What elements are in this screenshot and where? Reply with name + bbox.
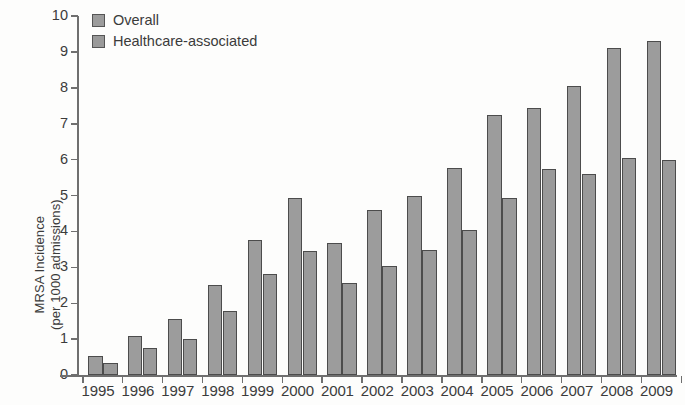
bar-healthcare-associated-1997: [183, 339, 198, 375]
x-axis-line: [60, 375, 677, 377]
x-axis-tick-label-2004: 2004: [439, 383, 475, 400]
x-axis-tick-label-2009: 2009: [639, 383, 675, 400]
bar-healthcare-associated-2002: [382, 266, 397, 375]
legend-label-healthcare-associated: Healthcare-associated: [113, 34, 257, 49]
y-axis-tick: [71, 123, 78, 125]
bar-overall-2007: [567, 86, 582, 375]
mrsa-incidence-bar-chart: MRSA Incidence (per 1000 admissions) 109…: [0, 0, 685, 405]
bar-overall-1996: [128, 336, 143, 375]
x-axis-tick: [641, 376, 643, 383]
bar-overall-2001: [327, 243, 342, 375]
bar-healthcare-associated-1995: [103, 363, 118, 375]
x-axis-tick-label-2002: 2002: [359, 383, 395, 400]
y-axis-tick: [71, 374, 78, 376]
bar-overall-1997: [168, 319, 183, 375]
bar-overall-2006: [527, 108, 542, 375]
y-axis-tick-label: 2: [46, 295, 68, 310]
x-axis-tick: [481, 376, 483, 383]
bar-overall-2005: [487, 115, 502, 375]
bar-overall-1995: [88, 356, 103, 375]
y-axis-tick-label: 1: [46, 331, 68, 346]
x-axis-tick: [441, 376, 443, 383]
legend-item-overall: Overall: [92, 11, 257, 30]
x-axis-tick: [282, 376, 284, 383]
bar-healthcare-associated-1999: [263, 274, 278, 375]
x-axis-tick: [202, 376, 204, 383]
y-axis-tick-label: 10: [46, 8, 68, 23]
legend-item-healthcare-associated: Healthcare-associated: [92, 32, 257, 51]
y-axis-tick: [71, 231, 78, 233]
bar-healthcare-associated-2000: [303, 251, 318, 375]
y-axis-tick: [71, 303, 78, 305]
x-axis-tick: [242, 376, 244, 383]
chart-legend: Overall Healthcare-associated: [92, 11, 257, 53]
bar-overall-2003: [407, 196, 422, 376]
x-axis-tick-label-2008: 2008: [599, 383, 635, 400]
legend-swatch-healthcare-associated: [92, 35, 105, 48]
x-axis-tick-label-2005: 2005: [479, 383, 515, 400]
bar-overall-1998: [208, 285, 223, 375]
bar-healthcare-associated-2001: [342, 283, 357, 375]
x-axis-tick: [521, 376, 523, 383]
x-axis-tick-label-2007: 2007: [559, 383, 595, 400]
x-axis-tick-label-1997: 1997: [160, 383, 196, 400]
bar-healthcare-associated-2005: [502, 198, 517, 375]
x-axis-tick: [361, 376, 363, 383]
y-axis-tick-label: 4: [46, 223, 68, 238]
x-axis-tick-label-2003: 2003: [399, 383, 435, 400]
y-axis-tick-labels: 109876543210: [38, 0, 68, 390]
x-axis-tick-label-1998: 1998: [200, 383, 236, 400]
y-axis-tick-label: 8: [46, 80, 68, 95]
bar-healthcare-associated-2003: [422, 250, 437, 375]
y-axis-tick-label: 7: [46, 116, 68, 131]
legend-swatch-overall: [92, 14, 105, 27]
y-axis-title-container: MRSA Incidence (per 1000 admissions): [0, 0, 40, 390]
bar-overall-2008: [607, 48, 622, 375]
y-axis-tick-label: 9: [46, 44, 68, 59]
x-axis-tick-label-2001: 2001: [319, 383, 355, 400]
bar-overall-2000: [288, 198, 303, 375]
plot-area: [78, 16, 677, 375]
y-axis-tick: [71, 267, 78, 269]
x-axis-tick-label-1995: 1995: [80, 383, 116, 400]
x-axis-tick: [122, 376, 124, 383]
x-axis-tick: [82, 376, 84, 383]
y-axis-tick-label: 5: [46, 188, 68, 203]
y-axis-tick: [71, 15, 78, 17]
x-axis-tick: [162, 376, 164, 383]
bar-healthcare-associated-2004: [462, 230, 477, 375]
y-axis-tick-label: 3: [46, 259, 68, 274]
bar-overall-2004: [447, 168, 462, 376]
y-axis-tick: [71, 87, 78, 89]
x-axis-tick: [561, 376, 563, 383]
bar-healthcare-associated-2009: [662, 160, 677, 375]
x-axis-tick: [601, 376, 603, 383]
x-axis-tick-label-1996: 1996: [120, 383, 156, 400]
x-axis-tick-label-1999: 1999: [240, 383, 276, 400]
bar-healthcare-associated-1998: [223, 311, 238, 375]
x-axis-tick: [681, 376, 683, 383]
legend-label-overall: Overall: [113, 13, 159, 28]
y-axis-tick: [71, 195, 78, 197]
bar-healthcare-associated-2007: [582, 174, 597, 375]
bar-overall-2009: [647, 41, 662, 375]
bar-healthcare-associated-2006: [542, 169, 557, 375]
bar-healthcare-associated-1996: [143, 348, 158, 375]
x-axis-tick-label-2000: 2000: [280, 383, 316, 400]
bar-overall-2002: [367, 210, 382, 375]
y-axis-tick-label: 6: [46, 152, 68, 167]
y-axis-tick: [71, 51, 78, 53]
y-axis-tick: [71, 159, 78, 161]
y-axis-tick: [71, 338, 78, 340]
x-axis-tick: [401, 376, 403, 383]
bar-overall-1999: [248, 240, 263, 375]
x-axis-tick-label-2006: 2006: [519, 383, 555, 400]
x-axis-tick: [321, 376, 323, 383]
bar-healthcare-associated-2008: [622, 158, 637, 375]
